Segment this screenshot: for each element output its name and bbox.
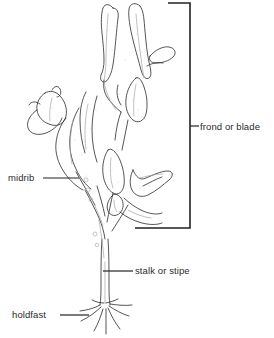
- blade-speckle-texture: [52, 30, 151, 249]
- seaweed-line-drawing: [0, 0, 274, 338]
- label-holdfast: holdfast: [12, 309, 46, 320]
- frond-outlines: [28, 4, 176, 334]
- label-midrib: midrib: [8, 172, 34, 183]
- label-frond-or-blade: frond or blade: [200, 121, 260, 132]
- seaweed-anatomy-figure: frond or blade midrib stalk or stipe hol…: [0, 0, 274, 338]
- frond-or-blade-bracket: [135, 3, 190, 228]
- label-stalk-or-stipe: stalk or stipe: [135, 265, 190, 276]
- midrib-inner-lines: [50, 14, 163, 303]
